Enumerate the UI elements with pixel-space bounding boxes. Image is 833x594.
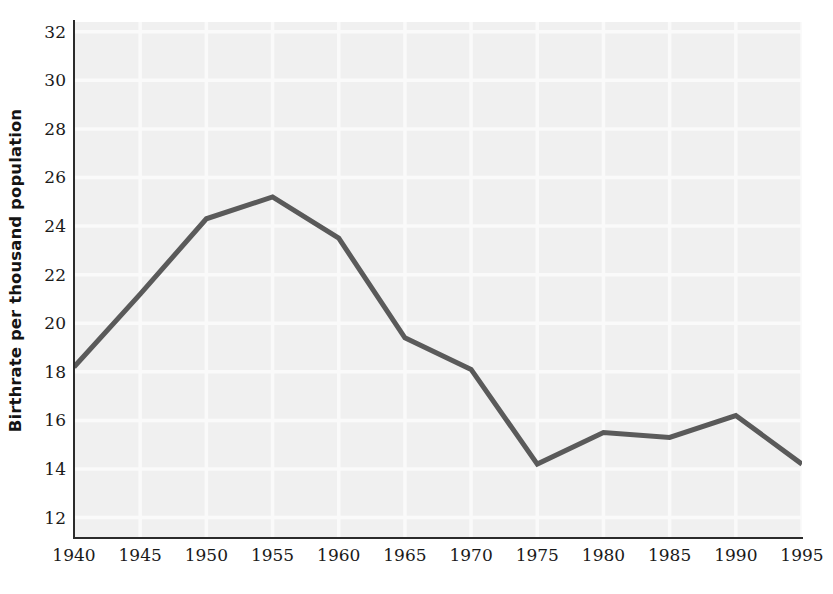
y-axis-line	[73, 20, 75, 539]
x-axis-tick-label: 1990	[714, 545, 757, 565]
y-axis-tick-label: 12	[44, 508, 66, 528]
y-axis-tick-label: 28	[44, 119, 66, 139]
x-axis-tick-label: 1960	[317, 545, 360, 565]
x-axis-tick-label: 1965	[383, 545, 426, 565]
x-axis-tick-label: 1940	[52, 545, 95, 565]
y-axis-tick-label: 18	[44, 362, 66, 382]
birthrate-line-chart: Birthrate per thousand population 323028…	[0, 0, 833, 594]
y-axis-title: Birthrate per thousand population	[0, 0, 32, 540]
y-axis-tick-label: 16	[44, 410, 66, 430]
y-axis-tick-label: 30	[44, 70, 66, 90]
y-axis-tick-label: 20	[44, 313, 66, 333]
x-axis-tick-label: 1955	[251, 545, 294, 565]
x-axis-tick-label: 1945	[119, 545, 162, 565]
y-axis-tick-label: 22	[44, 265, 66, 285]
x-axis-tick-label: 1995	[780, 545, 823, 565]
x-axis-tick-label: 1970	[449, 545, 492, 565]
x-axis-line	[73, 537, 803, 539]
y-axis-tick-labels: 3230282624222018161412	[32, 0, 72, 540]
y-axis-tick-label: 14	[44, 459, 66, 479]
x-axis-tick-label: 1985	[648, 545, 691, 565]
y-axis-tick-label: 32	[44, 22, 66, 42]
x-axis-tick-label: 1950	[185, 545, 228, 565]
plot-area	[74, 22, 802, 537]
vertical-gridlines	[140, 22, 802, 537]
x-axis-tick-label: 1975	[516, 545, 559, 565]
x-axis-tick-labels: 1940194519501955196019651970197519801985…	[0, 545, 833, 585]
plot-svg	[74, 22, 802, 537]
horizontal-gridlines	[74, 32, 802, 518]
x-axis-tick-label: 1980	[582, 545, 625, 565]
y-axis-tick-label: 24	[44, 216, 66, 236]
y-axis-tick-label: 26	[44, 167, 66, 187]
y-axis-title-label: Birthrate per thousand population	[7, 108, 26, 431]
birthrate-data-line	[74, 197, 802, 464]
